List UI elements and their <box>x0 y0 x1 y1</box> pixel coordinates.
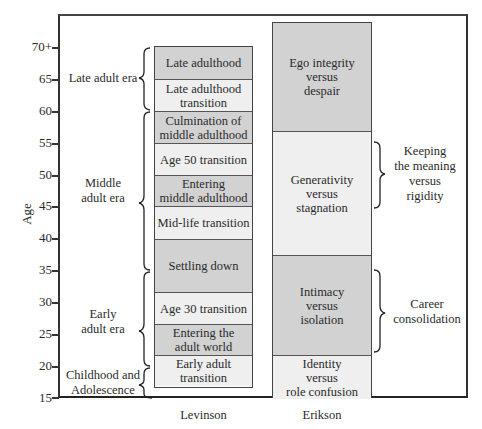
label-line: consolidation <box>386 312 468 327</box>
era-label-line: Early <box>64 307 142 322</box>
levinson-stage-age-30-transition: Age 30 transition <box>155 293 252 325</box>
tick-label: 65 <box>18 72 52 86</box>
era-late-adult: Late adult era <box>64 71 142 86</box>
levinson-stage-late-adulthood-transition: Late adulthoodtransition <box>155 80 252 112</box>
era-label-line: adult era <box>64 322 142 337</box>
stage-line: Age 30 transition <box>160 302 247 316</box>
levinson-stage-early-adult-transition: Early adulttransition <box>155 356 252 386</box>
tick-label: 45 <box>18 199 52 213</box>
label-line: Keeping <box>386 144 464 159</box>
era-childhood-adolescence: Childhood and Adolescence <box>62 368 144 398</box>
label-line: versus <box>386 174 464 189</box>
stage-line: Early adult <box>176 357 231 371</box>
tick-label: 35 <box>18 263 52 277</box>
stage-line: transition <box>166 96 241 110</box>
erikson-stage-generativity: Generativityversusstagnation <box>273 132 371 256</box>
brace-childhood <box>139 368 152 398</box>
tick-label: 15 <box>18 391 52 405</box>
stage-line: Settling down <box>169 259 239 273</box>
tick-mark <box>52 79 59 81</box>
levinson-label: Levinson <box>154 408 253 423</box>
stage-line: adult world <box>173 340 234 354</box>
stage-line: Entering the <box>173 326 234 340</box>
tick-label: 50 <box>18 168 52 182</box>
label-line: Career <box>386 297 468 312</box>
era-braces <box>138 46 154 400</box>
tick-label: 60 <box>18 104 52 118</box>
brace-early-adult <box>139 272 150 366</box>
stage-line: Ego integrity <box>289 56 355 70</box>
stage-line: Late adulthood <box>166 82 241 96</box>
brace-keeping-meaning <box>374 142 385 208</box>
tick-label: 70+ <box>18 40 52 54</box>
label-line: the meaning <box>386 159 464 174</box>
stage-line: stagnation <box>291 201 353 215</box>
levinson-column: Late adulthood Late adulthoodtransition … <box>154 46 253 388</box>
tick-label: 55 <box>18 136 52 150</box>
tick-label: 30 <box>18 295 52 309</box>
vaillant-keeping-meaning: Keeping the meaning versus rigidity <box>386 144 464 204</box>
tick-mark <box>52 366 59 368</box>
tick-mark <box>52 270 59 272</box>
levinson-stage-entering-adult-world: Entering theadult world <box>155 325 252 356</box>
era-label-line: Adolescence <box>62 383 144 398</box>
brace-career-consolidation <box>374 270 385 352</box>
stage-line: role confusion <box>286 385 358 399</box>
erikson-stage-ego-integrity: Ego integrityversusdespair <box>273 23 371 132</box>
stage-line: versus <box>289 70 355 84</box>
stage-line: Intimacy <box>300 285 344 299</box>
tick-mark <box>52 302 59 304</box>
tick-mark <box>52 175 59 177</box>
stage-line: versus <box>286 371 358 385</box>
stage-line: Late adulthood <box>166 56 241 70</box>
stage-line: Entering <box>160 177 248 191</box>
levinson-stage-culmination-middle: Culmination ofmiddle adulthood <box>155 112 252 144</box>
era-middle-adult: Middle adult era <box>64 176 142 206</box>
tick-mark <box>52 111 59 113</box>
stage-line: Age 50 transition <box>160 153 247 167</box>
tick-mark <box>52 47 59 49</box>
stage-line: Culmination of <box>160 114 248 128</box>
levinson-stage-entering-middle: Enteringmiddle adulthood <box>155 176 252 207</box>
tick-mark <box>52 206 59 208</box>
era-label-text: Late adult era <box>69 71 138 85</box>
stage-line: middle adulthood <box>160 128 248 142</box>
tick-label: 25 <box>18 327 52 341</box>
vaillant-career-consolidation: Career consolidation <box>386 297 468 327</box>
erikson-stage-intimacy: Intimacyversusisolation <box>273 256 371 356</box>
levinson-stage-settling-down: Settling down <box>155 240 252 293</box>
brace-middle-adult <box>139 112 150 270</box>
stage-line: versus <box>300 299 344 313</box>
stage-line: Identity <box>286 357 358 371</box>
stage-line: isolation <box>300 313 344 327</box>
label-line: rigidity <box>386 189 464 204</box>
tick-mark <box>52 397 59 399</box>
tick-mark <box>52 334 59 336</box>
levinson-stage-late-adulthood: Late adulthood <box>155 47 252 80</box>
levinson-stage-mid-life-transition: Mid-life transition <box>155 207 252 240</box>
tick-label: 40 <box>18 231 52 245</box>
stage-line: Generativity <box>291 173 353 187</box>
stage-line: despair <box>289 84 355 98</box>
tick-label: 20 <box>18 359 52 373</box>
levinson-stage-age-50-transition: Age 50 transition <box>155 144 252 176</box>
era-early-adult: Early adult era <box>64 307 142 337</box>
era-label-line: Childhood and <box>62 368 144 383</box>
stage-line: versus <box>291 187 353 201</box>
era-label-line: Middle <box>64 176 142 191</box>
tick-mark <box>52 143 59 145</box>
stage-line: Mid-life transition <box>158 216 250 230</box>
era-label-line: adult era <box>64 191 142 206</box>
stage-line: transition <box>176 371 231 385</box>
stage-line: middle adulthood <box>160 191 248 205</box>
erikson-stage-identity: Identityversusrole confusion <box>273 356 371 399</box>
tick-mark <box>52 238 59 240</box>
erikson-label: Erikson <box>272 408 372 423</box>
brace-late-adult <box>139 48 150 110</box>
erikson-column: Ego integrityversusdespair Generativityv… <box>272 22 372 398</box>
